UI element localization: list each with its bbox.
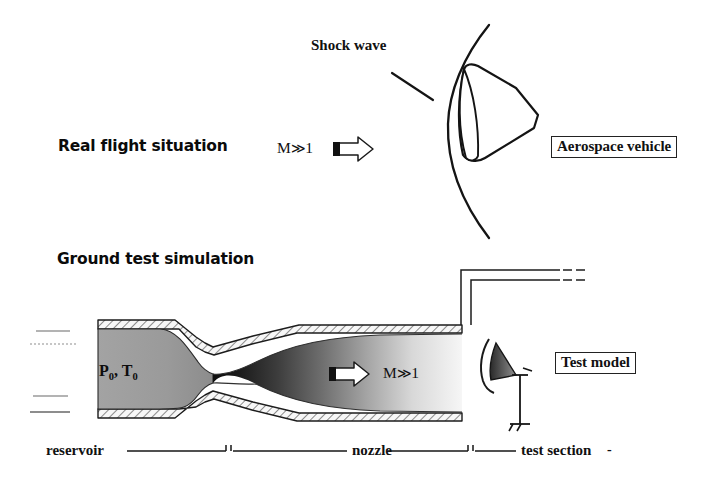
mach-label-bottom: M≫1 [383,365,420,381]
diffuser-duct-inner [471,280,560,325]
shock-wave-label: Shock wave [311,38,386,53]
reservoir-temperature-subscript: 0 [132,371,137,382]
shock-leader-line [392,73,433,100]
mach-relation-bottom: ≫ [397,366,411,381]
mach-value-top: 1 [305,139,313,156]
reservoir-temperature-symbol: T [122,362,133,379]
mach-relation-top: ≫ [291,141,305,156]
test-model-box: Test model [555,352,636,374]
station-label-reservoir: reservoir [46,443,104,458]
strut-base-hatch-1 [509,424,513,431]
reservoir-pressure-symbol: P [99,362,109,379]
page-title-ground-test: Ground test simulation [57,252,254,268]
page-title-real-flight: Real flight situation [58,139,228,155]
diagram-canvas: Real flight situation M≫1 Shock wave Aer… [0,0,725,479]
flow-arrow-top [333,137,373,161]
station-label-nozzle: nozzle [352,443,392,458]
station-trailing-dash: - [607,443,612,457]
mach-symbol-top: M [277,139,291,156]
diffuser-duct-outer [461,270,560,325]
station-divider-2 [468,445,473,451]
reservoir-label-separator: , [114,362,122,379]
model-sting-tip [523,368,532,371]
strut-base-hatch-2 [517,424,521,431]
aerospace-vehicle-box: Aerospace vehicle [551,136,677,158]
mach-label-top: M≫1 [277,140,314,156]
diagram-vector-layer [0,0,725,479]
mach-value-bottom: 1 [411,364,419,381]
station-label-test-section: test section [521,443,591,458]
reservoir-conditions-label: P0, T0 [99,363,138,383]
station-divider-1 [226,445,231,451]
mach-symbol-bottom: M [383,364,397,381]
